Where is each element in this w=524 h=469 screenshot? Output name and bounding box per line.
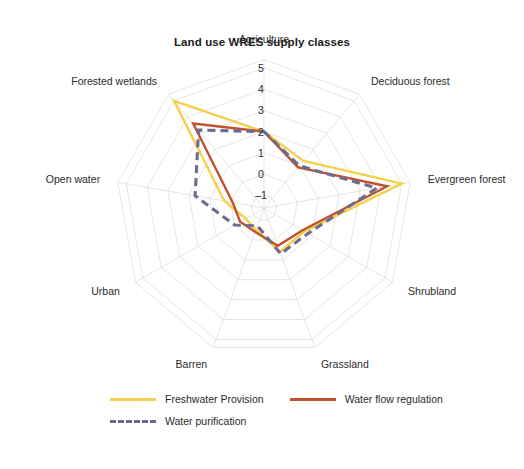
legend-item-water-flow-regulation[interactable]: Water flow regulation — [290, 393, 443, 405]
legend-swatch-water-flow-regulation — [290, 398, 336, 401]
legend-item-freshwater-provision[interactable]: Freshwater Provision — [110, 393, 264, 405]
legend-label-freshwater-provision: Freshwater Provision — [165, 393, 264, 405]
chart-legend: Freshwater Provision Water flow regulati… — [0, 388, 524, 432]
radar-chart-figure: Land use WRES supply classes 543210–1 Ag… — [0, 0, 524, 469]
radial-tick-label: 1 — [258, 147, 264, 159]
axis-label-evergreen-forest: Evergreen forest — [428, 173, 506, 185]
axis-label-shrubland: Shrubland — [408, 285, 456, 297]
axis-label-forested-wetlands: Forested wetlands — [71, 75, 157, 87]
axis-label-barren: Barren — [176, 358, 208, 370]
radar-series-layer — [174, 101, 402, 254]
legend-label-water-purification: Water purification — [165, 415, 246, 427]
radial-tick-label: 2 — [258, 126, 264, 138]
legend-row-primary: Freshwater Provision Water flow regulati… — [0, 388, 524, 410]
radial-tick-label: 4 — [258, 83, 264, 95]
legend-swatch-freshwater-provision — [110, 398, 156, 401]
axis-label-agriculture: Agriculture — [239, 33, 289, 45]
legend-item-water-purification[interactable]: Water purification — [110, 415, 246, 427]
radial-tick-label: 5 — [258, 62, 264, 74]
axis-label-deciduous-forest: Deciduous forest — [371, 75, 450, 87]
radar-axis-spoke — [264, 94, 359, 208]
axis-label-grassland: Grassland — [321, 358, 369, 370]
radar-axis-spoke — [169, 94, 264, 208]
radial-tick-label: 0 — [258, 168, 264, 180]
radial-tick-label: –1 — [255, 189, 267, 201]
legend-row-secondary: Water purification — [0, 410, 524, 432]
axis-label-open-water: Open water — [46, 173, 101, 185]
legend-label-water-flow-regulation: Water flow regulation — [345, 393, 443, 405]
axis-label-urban: Urban — [91, 285, 120, 297]
radial-tick-label: 3 — [258, 104, 264, 116]
legend-swatch-water-purification — [110, 420, 156, 423]
radar-axis-spoke — [118, 182, 264, 208]
